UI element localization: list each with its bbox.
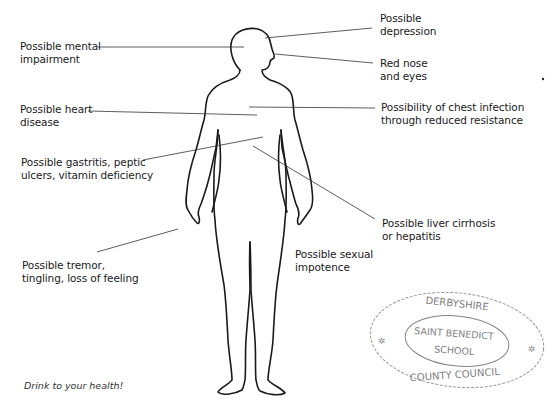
stamp-top-text: DERBYSHIRE <box>425 295 489 313</box>
leader-gastritis <box>143 137 263 160</box>
label-line: through reduced resistance <box>381 114 524 127</box>
label-line: depression <box>380 25 436 38</box>
stamp-center-line1: SAINT BENEDICT <box>414 325 494 342</box>
label-line: ulcers, vitamin deficiency <box>21 169 153 182</box>
leader-tremor <box>97 229 178 252</box>
label-line: Possible gastritis, peptic <box>21 156 153 169</box>
label-line: and eyes <box>380 70 428 83</box>
label-line: Possible <box>380 12 436 25</box>
leader-heart <box>88 111 257 115</box>
stamp-flower-left-icon: ✲ <box>378 336 386 346</box>
label-tremor: Possible tremor, tingling, loss of feeli… <box>22 259 139 285</box>
label-red-nose-eyes: Red nose and eyes <box>380 57 428 83</box>
label-heart-disease: Possible heart disease <box>20 103 92 129</box>
stamp-flower-right-icon: ✲ <box>528 344 536 354</box>
school-stamp: DERBYSHIRE SAINT BENEDICT SCHOOL COUNTY … <box>366 284 549 396</box>
label-liver: Possible liver cirrhosis or hepatitis <box>382 217 495 243</box>
label-line: Possible heart <box>20 103 92 116</box>
leader-liver <box>253 146 375 219</box>
leader-chest <box>249 107 375 108</box>
label-line: impotence <box>295 261 373 274</box>
caption: Drink to your health! <box>24 380 123 391</box>
label-line: or hepatitis <box>382 230 495 243</box>
leader-lines <box>88 28 375 252</box>
speck-mark <box>542 78 544 80</box>
stamp-center-line2: SCHOOL <box>434 343 475 357</box>
label-line: Possible tremor, <box>22 259 139 272</box>
label-sexual-impotence: Possible sexual impotence <box>295 248 373 274</box>
leader-depression <box>265 28 372 38</box>
label-line: disease <box>20 116 92 129</box>
body-outline <box>186 28 313 394</box>
label-line: Possible mental <box>20 40 101 53</box>
label-line: tingling, loss of feeling <box>22 272 139 285</box>
label-depression: Possible depression <box>380 12 436 38</box>
label-line: Possible sexual <box>295 248 373 261</box>
label-line: Red nose <box>380 57 428 70</box>
label-line: impairment <box>20 53 101 66</box>
stamp-bottom-text: COUNTY COUNCIL <box>409 366 500 383</box>
label-gastritis: Possible gastritis, peptic ulcers, vitam… <box>21 156 153 182</box>
label-line: Possibility of chest infection <box>381 101 524 114</box>
label-line: Possible liver cirrhosis <box>382 217 495 230</box>
label-chest-infection: Possibility of chest infection through r… <box>381 101 524 127</box>
label-mental-impairment: Possible mental impairment <box>20 40 101 66</box>
leader-nose <box>275 54 373 63</box>
